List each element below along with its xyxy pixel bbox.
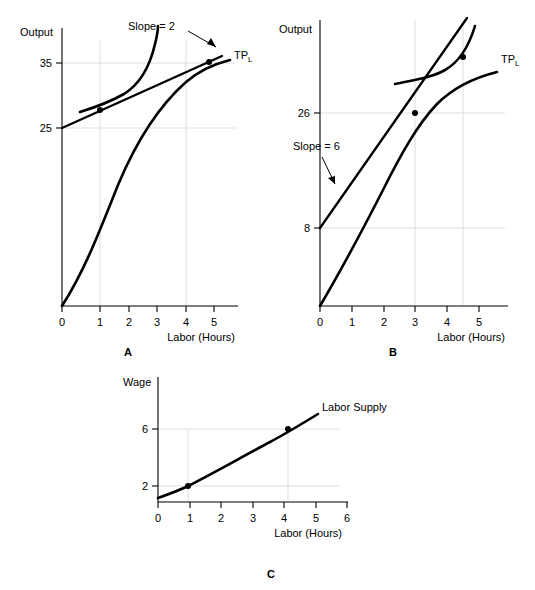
chart-panel-a: 35 25 0 1 2 3 4 5 Output Labor (Hours) S… xyxy=(0,0,265,345)
panel-b-svg: 26 8 0 1 2 3 4 5 Output Labor (Hours) Sl… xyxy=(265,0,535,345)
panel-a-marked-point-2 xyxy=(206,59,212,65)
panel-a-xtick-1: 1 xyxy=(97,316,103,328)
panel-a-tpl-curve xyxy=(62,60,230,306)
panel-a-tangent-line-slope-2 xyxy=(62,56,222,128)
panel-a-tpl-label: TPL xyxy=(234,49,253,64)
panel-b-xtick-3: 3 xyxy=(412,316,418,328)
panel-b-tangent-line-slope-6 xyxy=(320,18,467,228)
panel-c-xtick-4: 4 xyxy=(281,512,287,524)
panel-b-marked-point-1 xyxy=(412,110,418,116)
panel-b-ytick-8: 8 xyxy=(304,222,310,234)
panel-c-xtick-1: 1 xyxy=(187,512,193,524)
panel-a-xlabel: Labor (Hours) xyxy=(167,331,235,343)
panel-a-ytick-25: 25 xyxy=(40,122,52,134)
panel-b-xtick-4: 4 xyxy=(444,316,450,328)
panel-a-xtick-2: 2 xyxy=(126,316,132,328)
panel-b-marked-point-2 xyxy=(460,54,466,60)
panel-c-svg: 6 2 0 1 2 3 4 5 6 Wage Labor (Hours) Lab… xyxy=(110,355,430,590)
panel-c-tick-labels: 6 2 0 1 2 3 4 5 6 xyxy=(142,423,350,524)
panel-b-gridlines xyxy=(320,20,505,305)
panel-b-xtick-2: 2 xyxy=(381,316,387,328)
panel-c-labor-supply-curve xyxy=(158,414,318,498)
panel-b-xtick-5: 5 xyxy=(476,316,482,328)
panel-letter-c: C xyxy=(267,568,275,580)
panel-a-xtick-3: 3 xyxy=(154,316,160,328)
panel-b-tpl-label: TPL xyxy=(501,53,520,68)
panel-b-ytick-26: 26 xyxy=(298,107,310,119)
panel-c-xtick-6: 6 xyxy=(344,512,350,524)
panel-b-xlabel: Labor (Hours) xyxy=(437,331,505,343)
panel-c-xtick-3: 3 xyxy=(250,512,256,524)
panel-a-xtick-0: 0 xyxy=(59,316,65,328)
chart-panel-b: 26 8 0 1 2 3 4 5 Output Labor (Hours) Sl… xyxy=(265,0,535,345)
panel-c-xtick-2: 2 xyxy=(218,512,224,524)
panel-c-xtick-5: 5 xyxy=(313,512,319,524)
panel-a-ylabel: Output xyxy=(20,26,53,38)
panel-c-xlabel: Labor (Hours) xyxy=(274,527,342,539)
panel-c-marked-point-1 xyxy=(185,483,191,489)
panel-c-labor-supply-label: Labor Supply xyxy=(322,401,387,413)
panel-b-axes xyxy=(314,20,508,312)
panel-c-ytick-2: 2 xyxy=(142,480,148,492)
panel-a-xtick-4: 4 xyxy=(183,316,189,328)
panel-b-slope-arrow-icon xyxy=(322,157,335,184)
panel-c-xtick-0: 0 xyxy=(155,512,161,524)
chart-panel-c: 6 2 0 1 2 3 4 5 6 Wage Labor (Hours) Lab… xyxy=(110,355,430,590)
panel-a-xtick-5: 5 xyxy=(211,316,217,328)
panel-c-ylabel: Wage xyxy=(123,376,151,388)
panel-c-ytick-6: 6 xyxy=(142,423,148,435)
panel-c-marked-point-2 xyxy=(285,426,291,432)
panel-a-slope-arrow-icon xyxy=(188,31,216,47)
panel-c-gridlines xyxy=(158,429,340,501)
panel-b-xtick-0: 0 xyxy=(317,316,323,328)
panel-a-svg: 35 25 0 1 2 3 4 5 Output Labor (Hours) S… xyxy=(0,0,265,345)
panel-b-xtick-1: 1 xyxy=(349,316,355,328)
panel-b-ylabel: Output xyxy=(279,23,312,35)
panel-a-ytick-35: 35 xyxy=(40,57,52,69)
panel-b-slope-annotation-label: Slope = 6 xyxy=(293,140,340,152)
panel-a-gridlines xyxy=(62,40,235,305)
panel-a-slope-annotation-label: Slope = 2 xyxy=(128,20,175,32)
panel-a-indifference-curve xyxy=(80,26,158,112)
panel-a-marked-point-1 xyxy=(97,107,103,113)
